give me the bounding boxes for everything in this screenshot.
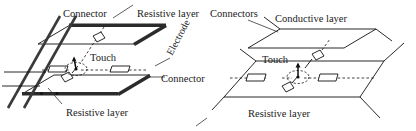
lead-terminal-dot-b bbox=[56, 92, 59, 95]
resistor-left bbox=[48, 66, 68, 72]
label-resistive-layer-bottom: Resistive layer bbox=[66, 107, 129, 118]
r-resistor-left-body bbox=[246, 74, 266, 81]
label-resistive-layer-top: Resistive layer bbox=[137, 8, 200, 19]
leader-electrode bbox=[155, 58, 170, 66]
r-stub-bottom-left bbox=[212, 97, 224, 110]
r-upper-plane-face bbox=[248, 29, 376, 48]
left-diagram: Connector Resistive layer Touch Electrod… bbox=[0, 0, 208, 131]
touch-arrow-head bbox=[72, 57, 77, 62]
r-resistor-upper-body bbox=[312, 50, 324, 60]
r-resistor-right bbox=[318, 74, 338, 81]
resistor-right-body bbox=[110, 66, 130, 72]
r-resistor-right-body bbox=[318, 74, 338, 81]
r-stub-bottom-right bbox=[360, 97, 380, 118]
label-connector-top: Connector bbox=[63, 8, 107, 19]
r-leader-connectors bbox=[248, 20, 278, 32]
r-upper-plane-group bbox=[248, 29, 376, 48]
r-resistor-left bbox=[246, 74, 266, 81]
r-label-resistive-layer: Resistive layer bbox=[248, 108, 311, 119]
r-label-touch-right: Touch bbox=[262, 54, 289, 65]
r-resistor-upper bbox=[312, 50, 324, 60]
r-stub-top-right bbox=[376, 29, 392, 41]
r-stub-mid-left bbox=[240, 49, 256, 61]
r-label-conductive-layer: Conductive layer bbox=[275, 13, 348, 24]
leader-connector-top bbox=[113, 5, 133, 18]
label-touch-left: Touch bbox=[90, 52, 117, 63]
resistor-right bbox=[110, 66, 130, 72]
r-leaders-group bbox=[248, 20, 278, 32]
lead-terminal-dot-a bbox=[40, 92, 43, 95]
figure-root: Connector Resistive layer Touch Electrod… bbox=[0, 0, 416, 131]
right-diagram: Connectors Conductive layer Touch Resist… bbox=[208, 0, 416, 131]
label-connector-right: Connector bbox=[161, 73, 205, 84]
label-electrode: Electrode bbox=[164, 17, 192, 56]
r-stub-mid-right bbox=[384, 43, 404, 61]
leader-corner-tick bbox=[196, 118, 207, 126]
r-label-connectors: Connectors bbox=[210, 8, 258, 19]
resistor-left-body bbox=[48, 66, 68, 72]
